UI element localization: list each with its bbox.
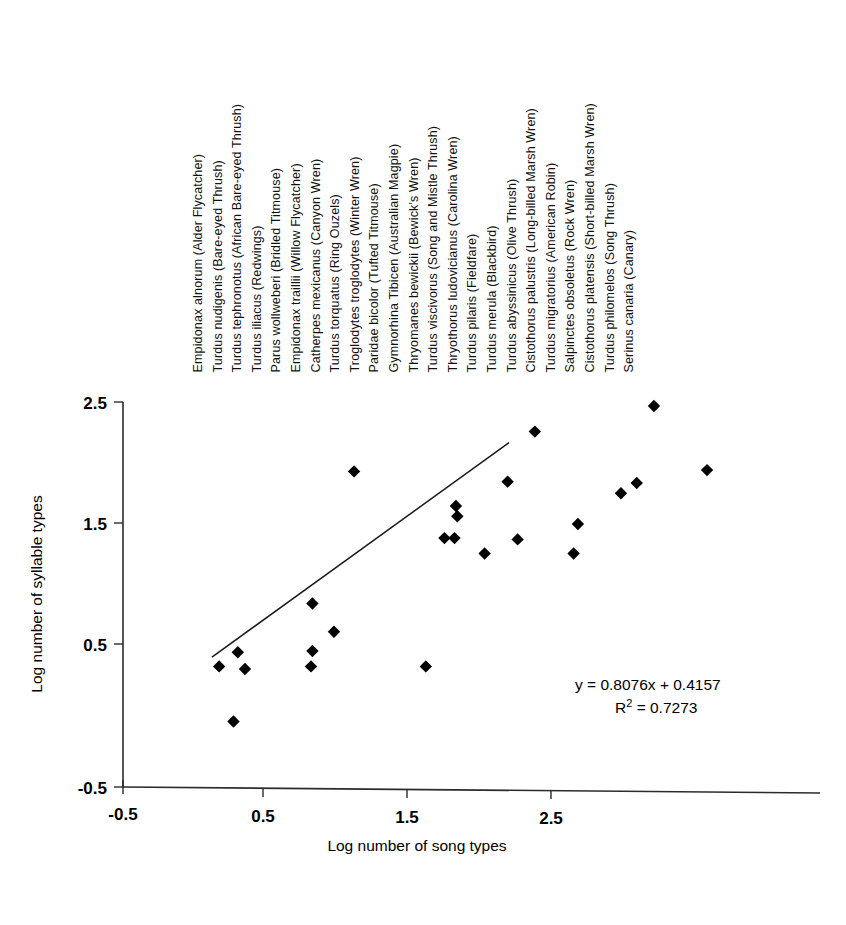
data-point-marker <box>529 425 541 437</box>
data-point-marker <box>648 400 660 412</box>
data-point-marker <box>227 715 239 727</box>
x-axis-title: Log number of song types <box>327 837 506 854</box>
data-point-marker <box>631 477 643 489</box>
x-tick-label-1.5: 1.5 <box>395 808 419 827</box>
y-tick-label-0.5: 0.5 <box>83 636 107 655</box>
y-tick-label-1.5: 1.5 <box>83 515 107 534</box>
r-squared-value: = 0.7273 <box>632 699 697 716</box>
r-squared-letter: R <box>615 699 626 716</box>
x-axis-line <box>123 787 820 793</box>
data-point-marker <box>450 500 462 512</box>
data-point-marker <box>232 646 244 658</box>
data-point-marker <box>615 487 627 499</box>
data-point-marker <box>305 660 317 672</box>
r-squared-annotation: R2 = 0.7273 <box>615 697 697 716</box>
data-point-marker <box>420 660 432 672</box>
regression-equation: y = 0.8076x + 0.4157 <box>575 676 721 693</box>
chart-svg: 2.5 1.5 0.5 -0.5 -0.5 0.5 1.5 2.5 Log nu… <box>0 0 846 925</box>
data-point-marker <box>572 518 584 530</box>
data-point-marker <box>501 475 513 487</box>
x-tick-label-2.5: 2.5 <box>539 809 563 828</box>
scatter-plot: 2.5 1.5 0.5 -0.5 -0.5 0.5 1.5 2.5 Log nu… <box>0 0 846 925</box>
y-axis-title: Log number of syllable types <box>28 495 45 693</box>
data-point-marker <box>478 547 490 559</box>
data-point-marker <box>239 663 251 675</box>
data-point-marker <box>306 597 318 609</box>
x-tick-label-0.5: 0.5 <box>251 807 275 826</box>
data-point-marker <box>701 464 713 476</box>
y-axis-ticks <box>114 402 123 787</box>
data-point-marker <box>451 510 463 522</box>
y-tick-label--0.5: -0.5 <box>78 779 107 798</box>
regression-trendline <box>212 443 509 657</box>
data-point-marker <box>348 465 360 477</box>
data-point-marker <box>567 547 579 559</box>
x-tick-label--0.5: -0.5 <box>108 805 137 824</box>
data-point-marker <box>213 660 225 672</box>
data-point-marker <box>511 533 523 545</box>
data-point-marker <box>306 645 318 657</box>
data-point-marker <box>438 532 450 544</box>
y-tick-label-2.5: 2.5 <box>83 394 107 413</box>
data-point-marker <box>328 626 340 638</box>
